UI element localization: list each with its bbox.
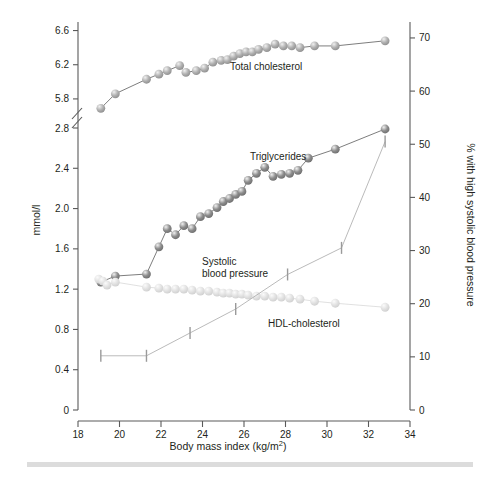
data-point [142,283,151,292]
data-point [381,36,390,45]
left-axis-tick-5-8: 5.8 [55,93,69,104]
data-point [171,230,180,239]
footer-divider-bar [27,462,473,467]
data-point [188,286,197,295]
x-axis-tick-32: 32 [363,429,375,440]
left-axis-tick-6-2: 6.2 [55,59,69,70]
label-hdl-cholesterol: HDL-cholesterol [268,318,340,329]
data-point [238,187,247,196]
right-axis-tick-60: 60 [419,86,431,97]
data-point [188,224,197,233]
data-point [269,172,278,181]
data-point [294,166,303,175]
series-layer [94,36,389,361]
data-point [142,75,151,84]
left-axis-tick-1-6: 1.6 [55,243,69,254]
series-triglycerides [96,125,389,287]
left-axis-tick-1-2: 1.2 [55,284,69,295]
data-point [111,89,120,98]
data-point [310,42,319,51]
data-point [279,42,288,51]
data-point [204,209,213,218]
data-point [269,293,278,302]
right-axis-tick-30: 30 [419,245,431,256]
right-axis-tick-50: 50 [419,139,431,150]
data-point [254,45,263,54]
data-point [204,287,213,296]
series-hdl-cholesterol [94,275,389,312]
right-axis-tick-70: 70 [419,32,431,43]
data-point [208,58,217,67]
data-point [331,42,340,51]
data-point [103,281,112,290]
bottom-axis-title: Body mass index (kg/m2) [170,439,287,452]
left-axis-tick-6-6: 6.6 [55,25,69,36]
x-axis-tick-30: 30 [321,429,333,440]
x-axis-tick-24: 24 [197,429,209,440]
data-point [196,212,205,221]
data-point [155,242,164,251]
data-point [285,294,294,303]
data-point [196,287,205,296]
data-point [381,303,390,312]
series-line [101,129,385,282]
data-point [142,270,151,279]
x-axis-tick-26: 26 [238,429,250,440]
data-point [260,292,269,301]
data-point [277,170,286,179]
label-systolic-blood-pressure-line2: blood pressure [202,268,269,279]
data-point [155,70,164,79]
data-point [296,295,305,304]
data-point [200,64,209,73]
data-point [163,224,172,233]
data-point [179,285,188,294]
x-axis-tick-20: 20 [114,429,126,440]
data-point [287,42,296,51]
right-axis-tick-10: 10 [419,351,431,362]
left-axis-tick-0: 0 [63,405,69,416]
x-axis-tick-18: 18 [72,429,84,440]
data-point [252,169,261,178]
axes-layer: 00.40.81.21.62.02.42.85.86.26.6010203040… [55,22,430,440]
x-axis-tick-22: 22 [155,429,167,440]
left-axis-tick-2-4: 2.4 [55,163,69,174]
data-point [175,61,184,70]
series-annotation-layer: Total cholesterol Triglycerides Systolic… [202,61,340,329]
data-point [271,40,280,49]
data-point [244,176,253,185]
data-point [296,43,305,52]
left-axis-tick-2-8: 2.8 [55,123,69,134]
left-axis-title: mmol/l [30,205,42,236]
left-axis-tick-0-8: 0.8 [55,324,69,335]
figure-container: 00.40.81.21.62.02.42.85.86.26.6010203040… [0,0,487,484]
data-point [111,278,120,287]
data-point [192,66,201,75]
x-axis-tick-34: 34 [404,429,416,440]
data-point [182,68,191,77]
data-point [179,221,188,230]
data-point [96,104,105,113]
data-point [331,145,340,154]
data-point [381,125,390,134]
data-point [310,297,319,306]
data-point [331,299,340,308]
right-axis-title: % with high systolic blood pressure [465,143,477,307]
data-point [285,169,294,178]
bmi-risk-factor-chart: 00.40.81.21.62.02.42.85.86.26.6010203040… [0,0,487,484]
right-axis-tick-40: 40 [419,192,431,203]
data-point [277,293,286,302]
right-axis-tick-0: 0 [419,405,425,416]
data-point [260,163,269,172]
left-axis-tick-2-0: 2.0 [55,203,69,214]
label-triglycerides: Triglycerides [250,151,306,162]
data-point [171,285,180,294]
series-total-cholesterol [96,36,389,112]
series-systolic-blood-pressure [101,136,385,362]
data-point [262,43,271,52]
label-total-cholesterol: Total cholesterol [230,61,302,72]
data-point [163,285,172,294]
data-point [155,284,164,293]
left-axis-tick-0-4: 0.4 [55,364,69,375]
data-point [163,66,172,75]
series-line [101,142,385,356]
